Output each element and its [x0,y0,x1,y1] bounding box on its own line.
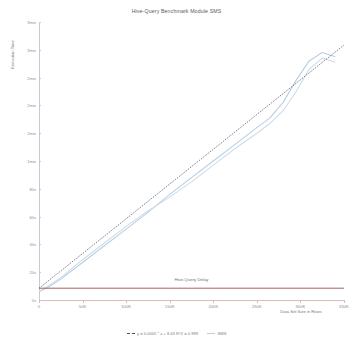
sms-swatch-icon [207,333,215,334]
y-tick-label: 3min [27,47,36,52]
legend-label-sms: SMS [218,331,227,336]
x-tick-label: 200K [208,304,218,309]
trendline-swatch-icon [127,333,135,334]
x-axis-line [39,300,344,301]
x-tick [39,300,40,303]
y-tick-label: 0s [32,298,36,303]
chart-root: Hive-Query Benchmark Module SMS Executio… [0,0,353,347]
y-tick-label: 2min [27,103,36,108]
x-tick-label: 150K [165,304,175,309]
x-tick-label: 250K [252,304,262,309]
y-tick-label: 60s [30,214,36,219]
x-tick-label: 50K [79,304,86,309]
x-tick [213,300,214,303]
legend-label-trendline: y = 0.0005 * x + 8.43 R^2 = 0.999 [137,331,198,336]
chart-legend: y = 0.0005 * x + 8.43 R^2 = 0.999 SMS [0,331,353,336]
x-tick-label: 0 [38,304,40,309]
y-tick-label: 3min [27,20,36,25]
series-y-0-0005-x-8-43-r-2-0-999 [39,45,344,288]
x-tick [83,300,84,303]
legend-item-trendline[interactable]: y = 0.0005 * x + 8.43 R^2 = 0.999 [127,331,198,336]
x-tick [126,300,127,303]
x-tick-label: 350K [339,304,349,309]
x-tick-label: 100K [121,304,131,309]
y-tick-label: 2min [27,75,36,80]
x-tick [300,300,301,303]
plot-area: 0s20s40s60s80s1min2min2min2min3min3min 0… [39,22,344,300]
y-tick-label: 2min [27,131,36,136]
annotation-hive-query-delay: Hive-Query Delay [175,277,209,282]
y-tick-label: 1min [27,159,36,164]
series-sms [39,53,335,292]
y-tick-label: 40s [30,242,36,247]
x-axis-title: Data Set Size in Rows [252,309,350,314]
legend-item-sms[interactable]: SMS [207,331,226,336]
x-tick [344,300,345,303]
chart-title: Hive-Query Benchmark Module SMS [0,8,353,14]
series-canvas [39,22,344,300]
x-tick [170,300,171,303]
x-tick-label: 300K [296,304,306,309]
y-tick-label: 80s [30,186,36,191]
series-sms-run-2 [39,58,335,292]
y-axis-title: Execution Time [10,25,15,85]
x-tick [257,300,258,303]
y-tick-label: 20s [30,270,36,275]
